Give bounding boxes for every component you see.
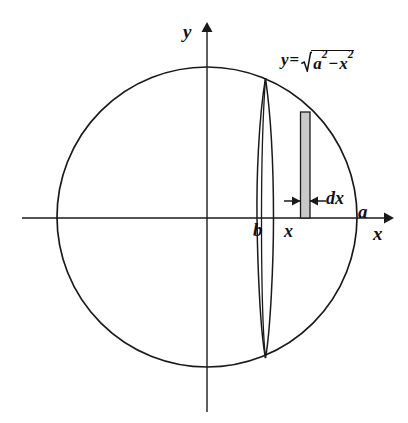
dx-right-arrowhead-icon xyxy=(310,197,319,206)
x-axis xyxy=(22,213,394,224)
equation-label: y = a2−x2 xyxy=(281,50,354,74)
y-axis-label: y xyxy=(183,22,191,41)
dx-label: dx xyxy=(326,189,344,207)
radicand-base-x: x xyxy=(339,54,348,73)
y-axis-arrowhead-icon xyxy=(202,22,213,32)
radicand-minus-sign: − xyxy=(328,54,340,73)
equation-equals: = xyxy=(289,50,301,70)
y-axis xyxy=(202,22,213,412)
equation-lhs: y xyxy=(281,50,289,70)
radicand-exponent-a: 2 xyxy=(322,48,328,61)
radicand: a2−x2 xyxy=(311,50,354,74)
x-axis-label: x xyxy=(373,224,383,243)
radius-label-a: a xyxy=(358,202,368,221)
radicand-exponent-x: 2 xyxy=(348,48,354,61)
dx-left-arrowhead-icon xyxy=(292,197,301,206)
dx-strip xyxy=(301,112,311,218)
semi-axis-label-b: b xyxy=(253,220,263,239)
x-axis-arrowhead-icon xyxy=(384,213,394,224)
x-position-label: x xyxy=(284,222,293,240)
radical-group: a2−x2 xyxy=(301,50,354,74)
radicand-base-a: a xyxy=(313,54,322,73)
diagram-canvas: y x a b x dx y = a2−x2 xyxy=(0,0,408,423)
